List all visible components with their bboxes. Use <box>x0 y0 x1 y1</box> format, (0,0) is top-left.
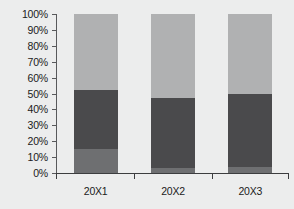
y-axis-tick-label: 40% <box>28 104 48 114</box>
bar-segment[interactable] <box>228 14 272 94</box>
y-axis-tick-label: 70% <box>28 57 48 67</box>
bar-stack[interactable] <box>74 14 118 173</box>
x-axis-left-cap <box>56 174 57 179</box>
y-axis-tick-label: 60% <box>28 73 48 83</box>
y-axis: 0%10%20%30%40%50%60%70%80%90%100% <box>0 0 56 209</box>
x-axis-tick-mark <box>212 174 213 179</box>
bar-stack[interactable] <box>228 14 272 173</box>
y-axis-tick-label: 30% <box>28 120 48 130</box>
y-axis-tick-mark <box>52 109 56 110</box>
y-axis-tick-label: 50% <box>28 89 48 99</box>
y-axis-tick-label: 0% <box>33 168 48 178</box>
y-axis-tick-label: 100% <box>22 9 48 19</box>
plot-area <box>57 14 289 173</box>
x-axis: 20X120X220X3 <box>57 186 289 206</box>
x-axis-tick-label: 20X2 <box>161 186 185 197</box>
bar-segment[interactable] <box>228 94 272 167</box>
y-axis-tick-mark <box>52 14 56 15</box>
y-axis-tick-mark <box>52 125 56 126</box>
x-axis-line <box>56 173 289 174</box>
bar-stack[interactable] <box>151 14 195 173</box>
x-axis-tick-label: 20X1 <box>84 186 108 197</box>
y-axis-tick-label: 80% <box>28 41 48 51</box>
y-axis-tick-label: 90% <box>28 25 48 35</box>
y-axis-tick-mark <box>52 173 56 174</box>
y-axis-tick-mark <box>52 78 56 79</box>
bar-segment[interactable] <box>151 98 195 168</box>
bar-segment[interactable] <box>74 14 118 90</box>
y-axis-tick-mark <box>52 141 56 142</box>
stacked-bar-chart: 0%10%20%30%40%50%60%70%80%90%100% 20X120… <box>0 0 294 209</box>
y-axis-tick-mark <box>52 94 56 95</box>
x-axis-tick-mark <box>134 174 135 179</box>
y-axis-tick-label: 10% <box>28 152 48 162</box>
x-axis-tick-label: 20X3 <box>238 186 262 197</box>
x-axis-right-cap <box>288 174 289 179</box>
y-axis-tick-label: 20% <box>28 136 48 146</box>
bar-segment[interactable] <box>74 149 118 173</box>
y-axis-tick-mark <box>52 62 56 63</box>
y-axis-tick-mark <box>52 46 56 47</box>
bar-segment[interactable] <box>151 14 195 98</box>
y-axis-tick-mark <box>52 157 56 158</box>
y-axis-tick-mark <box>52 30 56 31</box>
bar-segment[interactable] <box>74 90 118 149</box>
bar-segment[interactable] <box>228 167 272 173</box>
bar-segment[interactable] <box>151 168 195 173</box>
